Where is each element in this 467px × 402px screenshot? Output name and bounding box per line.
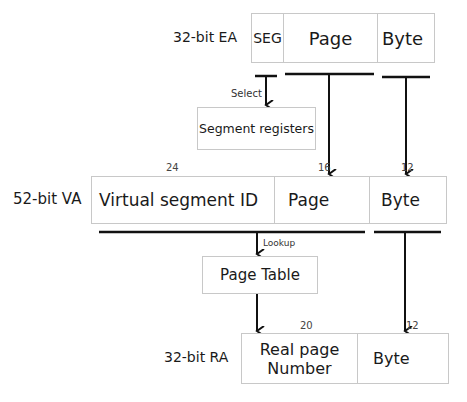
va-label: 52-bit VA	[13, 190, 81, 208]
va-register: Virtual segment ID Page Byte	[91, 176, 447, 224]
segment-registers-label: Segment registers	[199, 121, 314, 136]
va-byte-label: Byte	[381, 190, 420, 210]
lookup-edge-label: Lookup	[263, 238, 295, 248]
ra-page-number-field: Real page Number	[242, 334, 357, 383]
va-bits-byte: 12	[401, 162, 414, 173]
va-segment-id-label: Virtual segment ID	[99, 190, 258, 210]
ea-byte-field: Byte	[377, 14, 435, 62]
ra-page-number-line1: Real page	[260, 340, 340, 359]
ea-seg-field: SEG	[252, 14, 283, 62]
va-page-field: Page	[274, 177, 369, 223]
ra-byte-label: Byte	[373, 349, 410, 368]
ra-bits-page: 20	[300, 320, 313, 331]
va-byte-field: Byte	[369, 177, 447, 223]
ra-bits-byte: 12	[406, 320, 419, 331]
segment-registers-box: Segment registers	[197, 107, 316, 150]
page-table-box: Page Table	[202, 256, 318, 294]
page-table-label: Page Table	[220, 266, 300, 284]
ra-label: 32-bit RA	[164, 349, 228, 365]
select-edge-label: Select	[231, 88, 262, 99]
ea-label: 32-bit EA	[173, 29, 237, 45]
ra-byte-field: Byte	[357, 334, 449, 383]
ea-page-field: Page	[283, 14, 377, 62]
va-page-label: Page	[288, 190, 329, 210]
va-segment-id-field: Virtual segment ID	[92, 177, 274, 223]
ra-register: Real page Number Byte	[241, 333, 449, 384]
ea-register: SEG Page Byte	[251, 13, 435, 63]
ea-byte-label: Byte	[382, 28, 423, 49]
va-bits-segment: 24	[166, 162, 179, 173]
ea-page-label: Page	[309, 28, 353, 49]
ea-seg-label: SEG	[253, 30, 282, 46]
ra-page-number-line2: Number	[267, 359, 331, 378]
va-bits-page: 16	[318, 162, 331, 173]
